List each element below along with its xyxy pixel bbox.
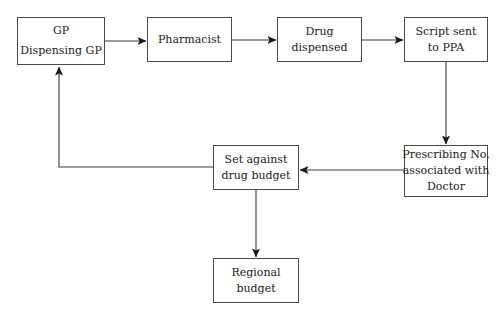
node-regional-budget-line-2: budget	[236, 281, 275, 297]
node-script-sent-line-2: to PPA	[428, 40, 464, 56]
node-regional-budget-line-1: Regional	[231, 265, 280, 281]
node-gp-line-1: GP	[53, 23, 69, 39]
node-drug-dispensed-line-1: Drug	[305, 24, 333, 40]
node-prescribing-line-1: Prescribing No.	[402, 147, 489, 163]
node-gp-line-2: Dispensing GP	[20, 43, 102, 59]
node-gp[interactable]: GP Dispensing GP	[17, 17, 105, 65]
node-pharmacist[interactable]: Pharmacist	[147, 17, 232, 62]
node-script-sent-to-ppa[interactable]: Script sent to PPA	[404, 17, 488, 62]
flowchart-diagram: GP Dispensing GP Pharmacist Drug dispens…	[0, 0, 503, 321]
node-script-sent-line-1: Script sent	[415, 24, 476, 40]
edge-setagainst-to-gp-feedback	[59, 67, 213, 167]
node-pharmacist-line-1: Pharmacist	[158, 32, 221, 48]
node-prescribing-line-2: associated with	[403, 163, 490, 179]
node-regional-budget[interactable]: Regional budget	[213, 258, 299, 303]
node-set-against-line-1: Set against	[225, 152, 288, 168]
node-set-against-line-2: drug budget	[221, 168, 290, 184]
node-set-against-drug-budget[interactable]: Set against drug budget	[213, 145, 299, 190]
node-drug-dispensed-line-2: dispensed	[291, 40, 347, 56]
node-prescribing-number[interactable]: Prescribing No. associated with Doctor	[404, 145, 488, 197]
node-prescribing-line-3: Doctor	[427, 179, 465, 195]
node-drug-dispensed[interactable]: Drug dispensed	[277, 17, 362, 62]
